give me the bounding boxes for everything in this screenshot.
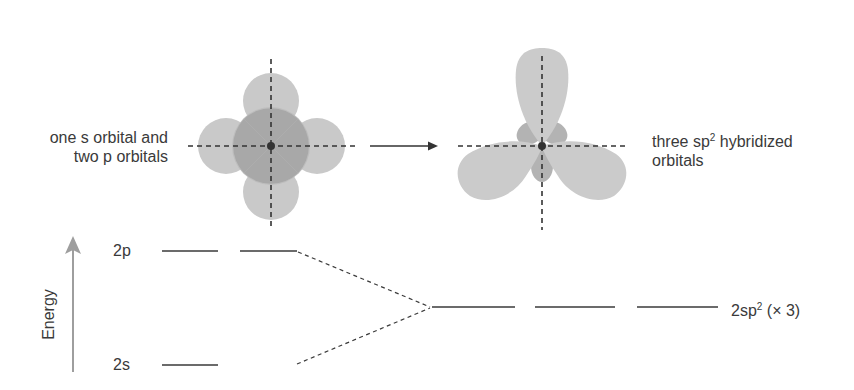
right-label-pre: three sp (652, 133, 710, 150)
right-label-post: hybridized (715, 133, 792, 150)
level-label-2s: 2s (113, 355, 130, 374)
right-label-line1: three sp2 hybridized (652, 128, 793, 151)
s-and-p-orbitals (188, 59, 356, 228)
energy-levels (162, 251, 718, 365)
level-label-2p: 2p (113, 241, 131, 260)
energy-axis-arrow (65, 236, 81, 372)
right-label-line2: orbitals (652, 151, 793, 170)
left-label-line1: one s orbital and (20, 128, 168, 147)
nucleus-dot (267, 142, 275, 150)
left-label-line2: two p orbitals (20, 147, 168, 166)
transform-arrow (370, 142, 438, 151)
sp2-label-pre: 2sp (731, 302, 757, 319)
nucleus-dot-hybrid (538, 142, 546, 150)
mixing-dashes (297, 252, 430, 364)
left-orbitals-label: one s orbital and two p orbitals (20, 128, 168, 166)
level-label-sp2: 2sp2 (× 3) (731, 297, 800, 320)
sp2-label-post: (× 3) (762, 302, 800, 319)
right-orbitals-label: three sp2 hybridized orbitals (652, 128, 793, 170)
energy-axis-label: Energy (39, 285, 58, 345)
sp2-hybrid-orbitals (458, 48, 627, 230)
diagram-canvas (0, 0, 854, 390)
